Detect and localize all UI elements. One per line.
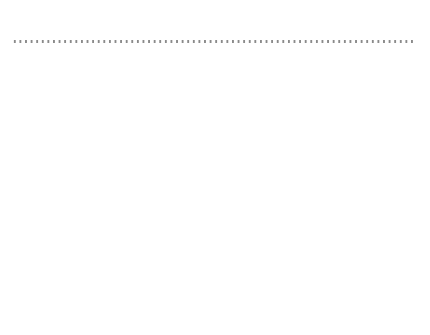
dotted-separator <box>12 40 416 43</box>
